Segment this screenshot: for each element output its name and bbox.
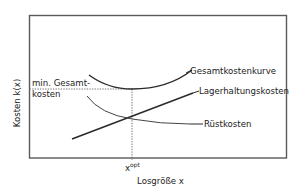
- label-total-cost: Gesamtkostenkurve: [190, 66, 276, 76]
- cost-chart: Gesamtkostenkurve Lagerhaltungskosten Rü…: [0, 0, 302, 193]
- total-cost-curve: [89, 70, 192, 89]
- label-x-opt: xopt: [125, 161, 141, 173]
- label-min-cost-2: kosten: [32, 89, 61, 99]
- y-axis-label: Kosten k(x): [12, 79, 22, 128]
- label-setup-cost: Rüstkosten: [204, 119, 251, 129]
- label-holding-cost: Lagerhaltungskosten: [199, 86, 289, 96]
- label-min-cost-1: min. Gesamt-: [32, 78, 90, 88]
- x-axis-label: Losgröße x: [137, 176, 184, 186]
